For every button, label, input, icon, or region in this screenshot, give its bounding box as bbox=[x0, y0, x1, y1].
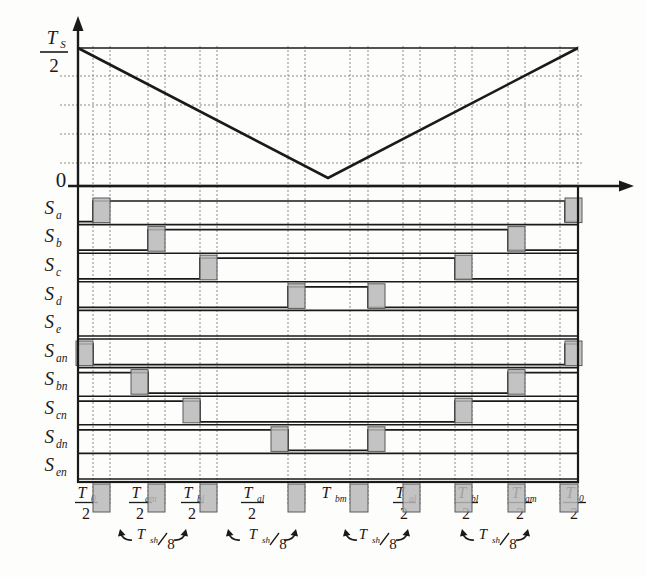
signal-trace-Sc bbox=[78, 258, 578, 279]
deadtime-fraction-slash-0 bbox=[158, 533, 167, 545]
bottom-deadtime-band-1 bbox=[148, 484, 165, 512]
signal-trace-Scn bbox=[78, 401, 578, 422]
signal-trace-Sdn bbox=[78, 430, 578, 451]
deadtime-arrow-right-head-icon-0 bbox=[181, 529, 189, 537]
signal-label-main-San: S bbox=[45, 340, 55, 361]
bottom-deadtime-band-3 bbox=[288, 484, 305, 512]
signal-label-sub-Sen: en bbox=[56, 466, 67, 478]
deadtime-band-Sa-0 bbox=[93, 198, 110, 223]
deadtime-arrow-left-head-icon-3 bbox=[460, 529, 468, 537]
deadtime-band-Sdn-1 bbox=[368, 427, 385, 452]
y-axis-top-label-denominator: 2 bbox=[49, 55, 59, 76]
y-axis-zero-label: 0 bbox=[56, 168, 67, 192]
signal-label-Sc: Sc bbox=[45, 254, 62, 278]
triangular-carrier-waveform bbox=[78, 48, 578, 178]
signal-label-Sd: Sd bbox=[45, 283, 63, 307]
deadtime-label-den-3: 8 bbox=[509, 536, 517, 552]
deadtime-arrow-left-head-icon-2 bbox=[343, 529, 351, 537]
signal-label-sub-Sb: b bbox=[56, 237, 62, 249]
signal-label-main-Sbn: S bbox=[45, 368, 55, 389]
deadtime-fraction-slash-1 bbox=[270, 533, 279, 545]
deadtime-label-sub-2: sh bbox=[372, 535, 381, 545]
y-axis-arrow-icon bbox=[73, 16, 84, 31]
signal-label-San: San bbox=[45, 340, 68, 364]
deadtime-band-Scn-1 bbox=[455, 398, 472, 423]
signal-label-sub-Sdn: dn bbox=[56, 438, 68, 450]
interval-label-num-0: T bbox=[78, 484, 88, 501]
bottom-deadtime-band-5 bbox=[403, 484, 420, 512]
deadtime-label-den-2: 8 bbox=[389, 536, 397, 552]
deadtime-label-den-0: 8 bbox=[167, 536, 175, 552]
deadtime-band-Sd-1 bbox=[368, 284, 385, 309]
signal-label-main-Sd: S bbox=[45, 283, 55, 304]
deadtime-label-sub-1: sh bbox=[262, 535, 271, 545]
signal-label-sub-San: an bbox=[56, 352, 68, 364]
deadtime-label-num-2: T bbox=[359, 526, 369, 542]
deadtime-arrow-right-head-icon-2 bbox=[403, 529, 411, 537]
bottom-deadtime-band-7 bbox=[508, 484, 525, 512]
signal-label-main-Scn: S bbox=[45, 397, 55, 418]
signal-label-sub-Sd: d bbox=[56, 295, 62, 307]
deadtime-band-Scn-0 bbox=[183, 398, 200, 423]
interval-label-den-2: 2 bbox=[188, 505, 196, 522]
deadtime-label-num-0: T bbox=[137, 526, 147, 542]
deadtime-band-Sc-1 bbox=[455, 255, 472, 280]
deadtime-label-num-1: T bbox=[249, 526, 259, 542]
deadtime-band-Sb-1 bbox=[508, 227, 525, 252]
signal-label-Sb: Sb bbox=[45, 225, 63, 249]
signal-trace-Sa bbox=[78, 201, 578, 222]
interval-label-den-1: 2 bbox=[136, 505, 144, 522]
deadtime-band-San-1 bbox=[565, 341, 582, 366]
deadtime-band-Sc-0 bbox=[200, 255, 217, 280]
interval-label-num-4: T bbox=[322, 484, 332, 501]
signal-label-main-Sb: S bbox=[45, 225, 55, 246]
signal-label-Sdn: Sdn bbox=[45, 426, 68, 450]
interval-label-den-0: 2 bbox=[82, 505, 90, 522]
interval-label-num-2: T bbox=[184, 484, 194, 501]
deadtime-band-Sb-0 bbox=[148, 227, 165, 252]
deadtime-arrow-left-head-icon-0 bbox=[118, 529, 126, 537]
deadtime-band-Sd-0 bbox=[288, 284, 305, 309]
signal-trace-San bbox=[78, 344, 578, 365]
signal-label-main-Se: S bbox=[45, 311, 55, 332]
x-axis-arrow-icon bbox=[619, 181, 634, 192]
signal-label-sub-Scn: cn bbox=[56, 409, 67, 421]
signal-trace-Sd bbox=[78, 287, 578, 308]
deadtime-label-num-3: T bbox=[479, 526, 489, 542]
figure-canvas: TS20SaSbScSdSeSanSbnScnSdnSenT02Tam2Tbl2… bbox=[0, 0, 646, 577]
signal-label-Sa: Sa bbox=[45, 197, 63, 221]
interval-label-den-3: 2 bbox=[248, 505, 256, 522]
bottom-deadtime-band-8 bbox=[560, 484, 578, 512]
deadtime-label-sub-0: sh bbox=[150, 535, 159, 545]
deadtime-band-Sdn-0 bbox=[271, 427, 288, 452]
bottom-deadtime-band-0 bbox=[93, 484, 110, 512]
deadtime-fraction-slash-3 bbox=[500, 533, 509, 545]
signal-trace-Sbn bbox=[78, 373, 578, 394]
deadtime-arrow-right-head-icon-1 bbox=[291, 529, 299, 537]
bottom-deadtime-band-4 bbox=[350, 484, 368, 512]
signal-label-sub-Sa: a bbox=[56, 209, 62, 221]
deadtime-fraction-slash-2 bbox=[380, 533, 389, 545]
deadtime-arrow-right-head-icon-3 bbox=[523, 529, 531, 537]
signal-label-sub-Sbn: bn bbox=[56, 380, 68, 392]
signal-label-main-Sc: S bbox=[45, 254, 55, 275]
interval-label-sub-4: bm bbox=[335, 494, 347, 504]
signal-label-Sbn: Sbn bbox=[45, 368, 68, 392]
signal-label-Se: Se bbox=[45, 311, 62, 335]
interval-label-num-3: T bbox=[244, 484, 254, 501]
signal-label-main-Sa: S bbox=[45, 197, 55, 218]
signal-label-Sen: Sen bbox=[45, 454, 68, 478]
deadtime-arrow-left-head-icon-1 bbox=[226, 529, 234, 537]
y-axis-top-label-numerator: T bbox=[47, 27, 59, 48]
bottom-deadtime-band-2 bbox=[200, 484, 217, 512]
signal-label-Scn: Scn bbox=[45, 397, 68, 421]
interval-label-num-1: T bbox=[132, 484, 142, 501]
bottom-deadtime-band-6 bbox=[455, 484, 472, 512]
deadtime-band-Sbn-1 bbox=[508, 370, 525, 395]
signal-label-sub-Se: e bbox=[56, 323, 61, 335]
signal-label-main-Sdn: S bbox=[45, 426, 55, 447]
signal-label-sub-Sc: c bbox=[56, 266, 61, 278]
deadtime-label-den-1: 8 bbox=[279, 536, 287, 552]
deadtime-band-Sa-1 bbox=[565, 198, 582, 223]
deadtime-band-Sbn-0 bbox=[131, 370, 148, 395]
